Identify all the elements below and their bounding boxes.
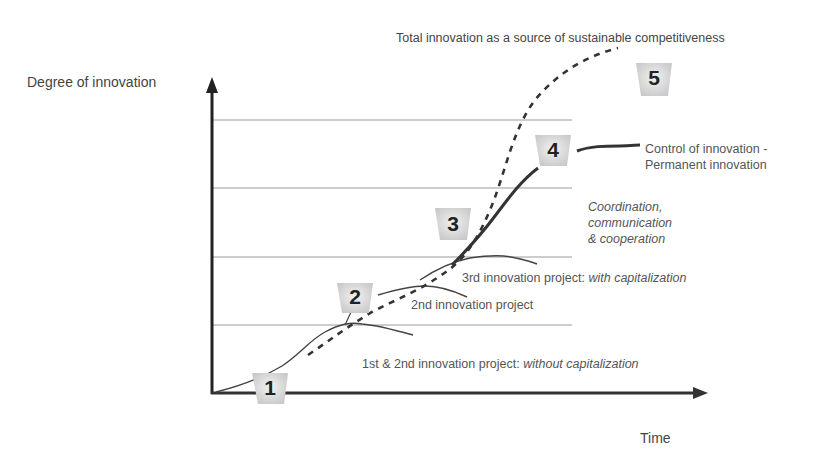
project3-label-emphasis: with capitalization <box>588 271 686 285</box>
stage-badge-4: 4 <box>535 134 571 166</box>
stage4-label-line1: Control of innovation - <box>645 142 767 156</box>
stage-number-5: 5 <box>636 62 672 94</box>
stage-badge-1: 1 <box>252 372 288 404</box>
project3-label-text: 3rd innovation project: <box>462 271 588 285</box>
stage-number-3: 3 <box>435 208 471 240</box>
y-axis-label: Degree of innovation <box>27 74 156 90</box>
project1-label-text: 1st & 2nd innovation project: <box>362 357 523 371</box>
coordination-line2: communication <box>588 216 672 230</box>
y-axis-arrowhead-icon <box>206 77 218 93</box>
stage-badge-5: 5 <box>636 62 672 94</box>
stage-badge-3: 3 <box>435 208 471 240</box>
project3-label: 3rd innovation project: with capitalizat… <box>462 271 686 285</box>
coordination-line3: & cooperation <box>588 232 665 246</box>
x-axis-label: Time <box>640 430 671 446</box>
stage-number-2: 2 <box>337 281 373 313</box>
project1-label: 1st & 2nd innovation project: without ca… <box>362 357 639 371</box>
project2-label: 2nd innovation project <box>411 298 533 312</box>
gridlines <box>213 120 572 325</box>
stage-badge-2: 2 <box>337 281 373 313</box>
project1-label-emphasis: without capitalization <box>523 357 638 371</box>
stage4-label-line2: Permanent innovation <box>645 158 767 172</box>
total-innovation-annotation: Total innovation as a source of sustaina… <box>396 31 725 45</box>
x-axis-arrowhead-icon <box>693 387 708 399</box>
diagram-canvas <box>0 0 818 469</box>
innovation-stages-diagram: 1 2 3 4 5 Degree of innovation Time Tota… <box>0 0 818 469</box>
stage-number-1: 1 <box>252 372 288 404</box>
coordination-line1: Coordination, <box>588 200 662 214</box>
stage-number-4: 4 <box>535 134 571 166</box>
